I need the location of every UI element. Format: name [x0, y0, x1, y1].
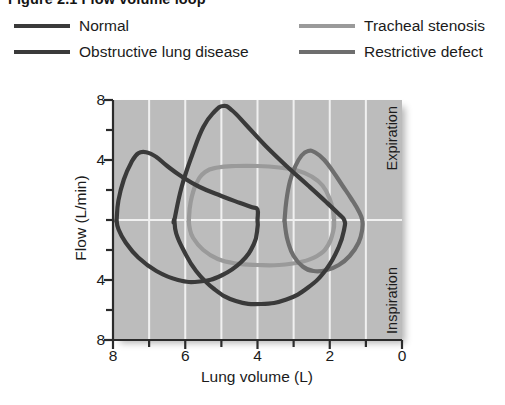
figure-flow-volume-loop: Figure 2.1 Flow volume loop Normal Obstr…	[0, 0, 505, 405]
x-axis-label: Lung volume (L)	[201, 368, 313, 386]
legend-label-obstructive-lung-disease: Obstructive lung disease	[79, 44, 249, 60]
legend-swatch-normal	[14, 24, 70, 28]
legend-swatch-obstructive-lung-disease	[14, 50, 70, 54]
x-tick-label: 0	[398, 347, 407, 365]
y-tick-label: 8	[96, 91, 105, 109]
y-tick-label: 4	[96, 151, 105, 169]
figure-title: Figure 2.1 Flow volume loop	[8, 0, 206, 7]
legend-item-tracheal-stenosis: Tracheal stenosis	[299, 18, 485, 34]
legend-item-restrictive-defect: Restrictive defect	[299, 44, 483, 60]
y-tick-label: 8	[96, 331, 105, 349]
legend-swatch-tracheal-stenosis	[299, 24, 355, 28]
x-tick-label: 2	[325, 347, 334, 365]
legend-label-tracheal-stenosis: Tracheal stenosis	[364, 18, 485, 34]
x-tick-label: 8	[109, 347, 118, 365]
legend-label-restrictive-defect: Restrictive defect	[364, 44, 483, 60]
legend-item-normal: Normal	[14, 18, 129, 34]
legend-item-obstructive-lung-disease: Obstructive lung disease	[14, 44, 249, 60]
y-tick-label: 4	[96, 271, 105, 289]
legend: Normal Obstructive lung disease Tracheal…	[0, 16, 505, 66]
y-axis-label: Flow (L/min)	[72, 175, 90, 260]
x-tick-label: 6	[181, 347, 190, 365]
legend-swatch-restrictive-defect	[299, 50, 355, 54]
legend-label-normal: Normal	[79, 18, 129, 34]
x-tick-label: 4	[253, 347, 262, 365]
plot-area: Expiration Inspiration 8448 86420 Flow (…	[113, 100, 402, 340]
